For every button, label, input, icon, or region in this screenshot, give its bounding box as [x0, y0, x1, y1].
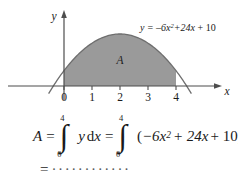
integrand-term1: −6x: [142, 129, 166, 144]
parabola-plot: 0 1 2 3 4 y x A y=–6x2+24x+ 10: [0, 0, 238, 110]
integral-second: ∫ 4 0: [118, 116, 136, 156]
area-label: A: [115, 54, 124, 66]
formula-area-symbol: A: [33, 129, 42, 144]
curve-label-equals: =: [147, 22, 153, 33]
integral-lower-limit: 0: [57, 150, 66, 159]
integral-formula-line: A = ∫ 4 0 y dx = ∫ 4 0 (−6x2+ 24x+ 10) d…: [33, 116, 238, 156]
formula-equals-2: =: [105, 129, 113, 144]
integrand-y: y: [78, 129, 85, 144]
result-line: = ············: [40, 162, 131, 177]
integral-first: ∫ 4 0: [60, 116, 78, 156]
curve-label-lhs: y: [139, 22, 145, 33]
differential-var-1: x: [94, 128, 101, 144]
curve-label-term2: +24x: [174, 22, 196, 33]
integral-upper-limit-2: 4: [119, 114, 128, 123]
result-equals: =: [40, 162, 48, 177]
y-axis-arrow: [61, 10, 67, 18]
curve-label-term1: –6x: [155, 22, 171, 33]
x-tick-label-3: 3: [145, 91, 151, 103]
integrand-term3: + 10: [211, 129, 238, 144]
graph-figure: 0 1 2 3 4 y x A y=–6x2+24x+ 10: [0, 0, 238, 110]
svg-text:y=–6x2+24x+ 10: y=–6x2+24x+ 10: [139, 22, 216, 33]
curve-label-term3: + 10: [198, 22, 216, 33]
differential-dx-1: dx: [87, 129, 101, 144]
x-axis-label: x: [223, 85, 230, 97]
answer-blank[interactable]: ············: [51, 162, 130, 177]
integral-lower-limit-2: 0: [116, 150, 125, 159]
integral-limits-2: 4 0: [118, 116, 127, 156]
integral-limits: 4 0: [59, 116, 68, 156]
x-axis-arrow: [214, 83, 222, 89]
x-tick-label-0: 0: [61, 91, 67, 103]
x-tick-label-2: 2: [117, 91, 123, 103]
curve-equation-label: y=–6x2+24x+ 10: [139, 22, 216, 33]
formula-equals-1: =: [46, 129, 54, 144]
y-axis-label: y: [50, 10, 57, 23]
x-tick-label-1: 1: [89, 91, 95, 103]
integrand-term2: + 24x: [173, 129, 209, 144]
x-tick-label-4: 4: [173, 91, 179, 103]
integrand-term1-exponent: 2: [166, 131, 171, 141]
integral-upper-limit: 4: [60, 114, 69, 123]
